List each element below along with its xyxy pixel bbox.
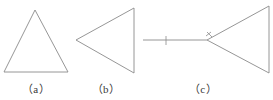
panel-c-shape bbox=[143, 6, 269, 73]
panel-a-shape bbox=[4, 10, 68, 72]
panel-label-a: （a） bbox=[14, 80, 58, 96]
triangle-left-c bbox=[207, 6, 269, 73]
panel-b-shape bbox=[76, 8, 134, 73]
triangle-up-a bbox=[4, 10, 68, 72]
panel-label-b: （b） bbox=[84, 80, 128, 96]
triangle-left-b bbox=[76, 8, 134, 73]
panel-label-c: （c） bbox=[181, 80, 225, 96]
figure-container: （a） （b） （c） bbox=[0, 0, 273, 100]
